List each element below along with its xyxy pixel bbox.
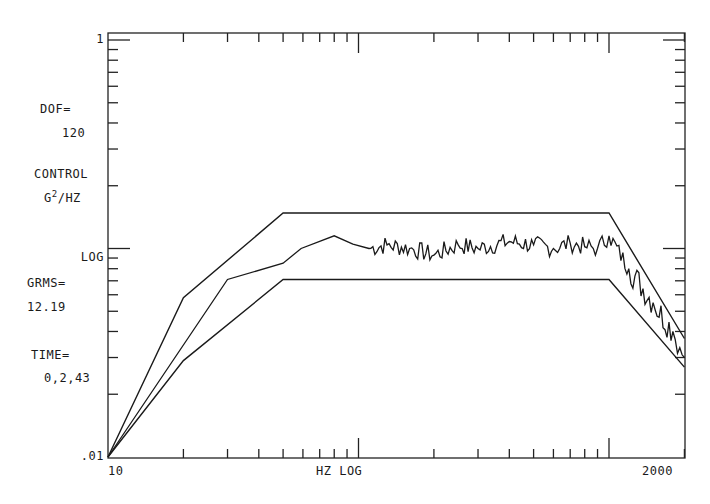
units-base: G — [44, 191, 52, 205]
grms-value: 12.19 — [27, 300, 66, 314]
x-tick-label-left: 10 — [108, 464, 123, 478]
log-label: LOG — [50, 250, 104, 264]
psd-plot — [0, 0, 710, 504]
time-label: TIME= — [31, 348, 70, 362]
data-curves — [108, 213, 684, 457]
upper-tolerance-line — [108, 213, 684, 457]
units-rest: /HZ — [58, 191, 81, 205]
units-label: G2/HZ — [44, 191, 81, 205]
y-tick-label-bottom: .01 — [60, 449, 104, 463]
x-tick-label-right: 2000 — [642, 464, 673, 478]
grms-label: GRMS= — [27, 276, 66, 290]
dof-label: DOF= — [40, 102, 71, 116]
control-line — [108, 234, 684, 457]
y-tick-label-top: 1 — [70, 32, 104, 46]
dof-value: 120 — [62, 126, 85, 140]
lower-tolerance-line — [108, 280, 684, 458]
control-label: CONTROL — [34, 167, 88, 181]
time-value: 0,2,43 — [44, 371, 90, 385]
x-axis-label: HZ LOG — [316, 464, 362, 478]
